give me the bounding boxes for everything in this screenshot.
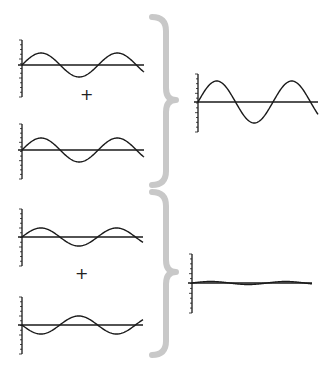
destructive-input-wave-1 xyxy=(18,209,143,266)
superposition-diagram xyxy=(0,0,330,373)
destructive-input-wave-2 xyxy=(18,297,143,354)
plus-sign: + xyxy=(80,85,93,104)
constructive-brace xyxy=(152,17,176,185)
constructive-result-wave xyxy=(194,74,318,132)
destructive-result-wave xyxy=(188,254,312,313)
destructive-brace xyxy=(152,192,176,355)
plus-sign: + xyxy=(75,264,88,283)
constructive-input-wave-2 xyxy=(18,124,144,179)
